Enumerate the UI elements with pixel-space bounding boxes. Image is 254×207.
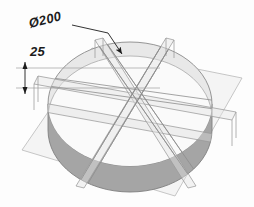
thickness-dimension-label: 25 <box>29 44 46 59</box>
cad-drawing-canvas: Ø200 25 <box>0 0 254 207</box>
diameter-dimension-label: Ø200 <box>27 8 63 31</box>
isometric-drawing: Ø200 25 <box>0 0 254 207</box>
